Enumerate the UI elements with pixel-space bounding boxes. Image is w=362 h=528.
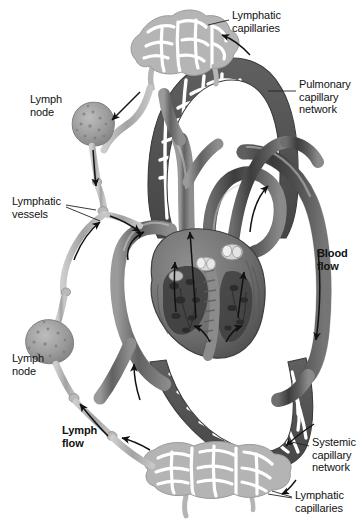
leader-lymphatic-vessels-b (66, 207, 100, 221)
lymphatic-capillaries-bottom (144, 442, 291, 517)
label-lymph-node-upper: Lymph node (30, 93, 62, 118)
label-lymphatic-capillaries-top: Lymphatic capillaries (232, 9, 281, 34)
lymph-node-upper (72, 102, 114, 146)
label-blood-flow: Blood flow (317, 247, 348, 272)
blood-flow-arrow-pulmonary (250, 186, 268, 232)
label-lymphatic-capillaries-bottom: Lymphatic capillaries (295, 489, 344, 514)
label-lymph-flow: Lymph flow (62, 424, 97, 449)
lymphatic-valve-mid (61, 288, 70, 296)
label-systemic-capillary-network: Systemic capillary network (312, 436, 356, 474)
lymphatic-vessel-chain-left (26, 88, 152, 466)
figure-canvas: Lymphatic capillaries Pulmonary capillar… (0, 0, 362, 528)
label-pulmonary-capillary-network: Pulmonary capillary network (299, 78, 351, 116)
label-lymphatic-vessels: Lymphatic vessels (12, 195, 61, 220)
label-lymph-node-lower: Lymph node (12, 352, 44, 377)
